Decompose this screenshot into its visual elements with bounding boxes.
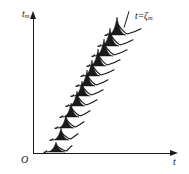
pulse-spike (53, 128, 69, 140)
pulse-spike (47, 142, 65, 152)
pulse-left-skirt (98, 45, 102, 47)
pulse-left-skirt (55, 127, 59, 129)
origin-label-text: O (21, 154, 28, 165)
trend-line-label: t=ζm (135, 12, 153, 22)
pulse-left-skirt (66, 105, 70, 107)
figure-canvas: tm t O t=ζm (0, 0, 189, 174)
pulse-left-skirt (60, 116, 64, 118)
vertical-axis-label-subscript: m (25, 12, 30, 19)
vertical-axis-label: tm (22, 10, 29, 20)
pulse-series-layer (0, 0, 189, 174)
pulse-left-skirt (44, 151, 48, 153)
pulse-left-skirt (76, 85, 80, 87)
pulse-waveform (44, 142, 73, 152)
pulse-waveform (50, 128, 79, 140)
horizontal-axis-label-text: t (173, 156, 176, 167)
pulse-left-skirt (92, 55, 96, 57)
pulse-left-skirt (105, 34, 109, 36)
pulse-left-skirt (50, 139, 54, 141)
pulse-left-skirt (87, 65, 91, 67)
trend-label-subscript: m (148, 14, 153, 21)
origin-label: O (21, 155, 28, 165)
horizontal-axis-label: t (173, 157, 176, 167)
pulse-left-skirt (81, 75, 85, 77)
pulse-left-skirt (71, 95, 75, 97)
